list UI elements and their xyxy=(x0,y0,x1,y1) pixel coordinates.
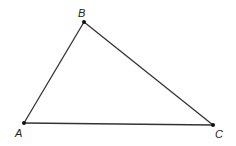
vertex-a-point xyxy=(22,121,26,125)
edge-ab xyxy=(24,22,84,123)
vertex-b-point xyxy=(82,20,86,24)
vertex-a-label: A xyxy=(14,127,22,139)
vertex-c-point xyxy=(211,123,215,127)
vertex-b-label: B xyxy=(78,7,85,19)
triangle-edges xyxy=(24,22,213,125)
edge-bc xyxy=(84,22,213,125)
triangle-vertices xyxy=(22,20,215,127)
vertex-c-label: C xyxy=(215,128,223,140)
vertex-labels: ABC xyxy=(14,7,223,140)
edge-ac xyxy=(24,123,213,125)
triangle-diagram: ABC xyxy=(0,0,236,146)
